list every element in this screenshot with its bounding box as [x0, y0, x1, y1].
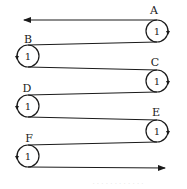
- node-value: 1: [25, 101, 31, 112]
- node-label: C: [151, 56, 159, 69]
- node-label: F: [25, 132, 33, 145]
- line-d-e: [28, 117, 157, 120]
- node-label: E: [152, 106, 160, 119]
- line-c-d: [28, 92, 157, 95]
- line-e-f: [28, 142, 157, 145]
- winding-diagram: A 1 B 1 C 1 D 1 E 1 F 1 · · · · · · · · …: [0, 0, 187, 189]
- node-value: 1: [154, 76, 160, 87]
- node-label: B: [24, 33, 32, 46]
- line-b-c: [28, 67, 157, 70]
- node-b: B 1: [17, 33, 39, 67]
- node-label: A: [149, 4, 159, 17]
- node-e: E 1: [146, 106, 168, 142]
- line-a-b: [28, 42, 157, 45]
- end-line: [28, 167, 165, 168]
- node-value: 1: [25, 151, 31, 162]
- node-label: D: [23, 82, 32, 95]
- faint-caption: · · · · · · · · · · · ·: [92, 180, 143, 188]
- node-f: F 1: [17, 132, 39, 167]
- node-value: 1: [154, 126, 160, 137]
- node-value: 1: [154, 26, 160, 37]
- node-a: A 1: [146, 4, 168, 42]
- node-c: C 1: [146, 56, 168, 92]
- node-d: D 1: [17, 82, 39, 117]
- node-value: 1: [25, 51, 31, 62]
